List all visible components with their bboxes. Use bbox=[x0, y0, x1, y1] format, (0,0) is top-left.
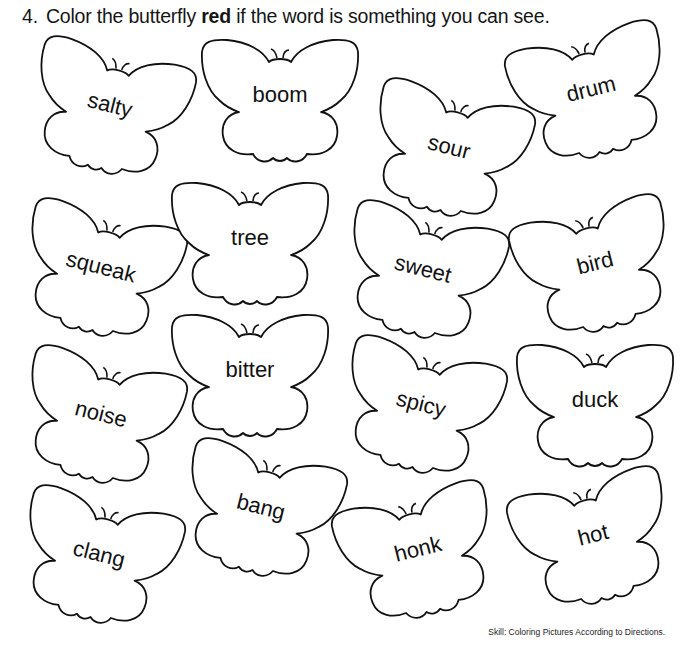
butterfly-drum[interactable]: drum bbox=[497, 14, 690, 180]
butterfly-bitter[interactable]: bitter bbox=[167, 313, 333, 443]
butterfly-word: boom bbox=[197, 82, 363, 108]
butterfly-word: tree bbox=[167, 225, 333, 251]
instruction-text: 4.Color the butterfly red if the word is… bbox=[22, 5, 550, 28]
butterfly-honk[interactable]: honk bbox=[324, 474, 517, 640]
butterfly-hot[interactable]: hot bbox=[499, 460, 691, 626]
butterfly-boom[interactable]: boom bbox=[197, 38, 363, 168]
question-number: 4. bbox=[22, 5, 38, 27]
butterfly-duck[interactable]: duck bbox=[512, 343, 678, 473]
skill-footer: Skill: Coloring Pictures According to Di… bbox=[488, 627, 665, 637]
butterfly-word: duck bbox=[512, 387, 678, 413]
instruction-emphasis: red bbox=[201, 5, 231, 27]
butterfly-bird[interactable]: bird bbox=[501, 188, 691, 354]
butterfly-salty[interactable]: salty bbox=[12, 30, 205, 196]
instruction-before: Color the butterfly bbox=[46, 5, 196, 27]
butterfly-tree[interactable]: tree bbox=[167, 181, 333, 311]
instruction-after: if the word is something you can see. bbox=[236, 5, 549, 27]
butterfly-clang[interactable]: clang bbox=[1, 479, 194, 645]
butterfly-word: bitter bbox=[167, 357, 333, 383]
